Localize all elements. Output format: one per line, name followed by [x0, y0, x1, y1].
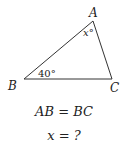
vertex-label-c: C — [110, 81, 119, 95]
triangle-diagram: A B C x° 40° — [0, 0, 128, 146]
vertex-label-a: A — [88, 6, 98, 20]
equation-x-question: x = ? — [0, 128, 128, 143]
vertex-label-b: B — [7, 79, 17, 93]
angle-label-a: x° — [83, 27, 94, 38]
angle-label-b: 40° — [38, 68, 56, 79]
equation-ab-equals-bc: AB = BC — [0, 104, 128, 119]
